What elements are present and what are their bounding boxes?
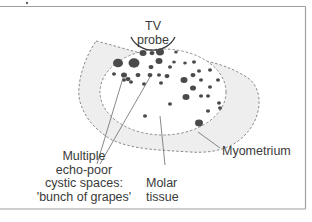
cyst xyxy=(156,58,163,64)
molar-label-line-1: Molar xyxy=(146,177,179,191)
cyst xyxy=(168,102,172,105)
myometrium-label-text: Myometrium xyxy=(222,145,291,159)
cyst xyxy=(191,73,196,77)
cyst xyxy=(197,69,201,72)
cyst xyxy=(216,78,220,81)
cyst xyxy=(143,114,147,117)
cyst xyxy=(129,80,133,83)
cyst xyxy=(208,68,212,71)
cyst xyxy=(218,106,222,109)
cyst xyxy=(159,81,163,84)
cyst xyxy=(165,74,170,78)
cyst xyxy=(181,77,188,83)
cyst xyxy=(192,60,196,63)
probe-label-line-1: TV xyxy=(133,20,173,34)
cyst xyxy=(121,72,127,77)
cyst xyxy=(208,85,212,88)
cyst xyxy=(183,61,187,64)
cyst xyxy=(126,77,131,81)
cyst xyxy=(206,94,210,97)
cystic-spaces-label: Multiple echo-poor cystic spaces: 'bunch… xyxy=(28,150,140,204)
cyst xyxy=(129,58,140,67)
cyst xyxy=(199,94,203,97)
molar-pregnancy-diagram: TV probe Multiple echo-poor cystic space… xyxy=(0,0,312,222)
cyst xyxy=(190,85,196,90)
cyst xyxy=(183,94,190,100)
cyst xyxy=(157,73,161,76)
cyst xyxy=(174,50,178,53)
cyst xyxy=(113,59,123,68)
probe-label-line-2: probe xyxy=(133,34,173,48)
cysts-label-line-1: Multiple xyxy=(28,150,140,164)
myometrium-label: Myometrium xyxy=(222,145,291,159)
cyst xyxy=(199,78,203,81)
cyst xyxy=(172,60,176,63)
molar-tissue-label: Molar tissue xyxy=(146,177,179,204)
cyst xyxy=(149,65,154,69)
cyst xyxy=(206,109,210,112)
cyst xyxy=(195,120,203,127)
cyst xyxy=(112,72,116,75)
cyst xyxy=(136,73,141,77)
molar-label-line-2: tissue xyxy=(146,191,179,205)
cyst xyxy=(156,49,164,56)
cysts-label-line-3: cystic spaces: xyxy=(28,177,140,191)
cysts-label-line-4: 'bunch of grapes' xyxy=(28,191,140,205)
cyst xyxy=(148,73,153,77)
cropped-glyph xyxy=(26,2,28,4)
tv-probe-label: TV probe xyxy=(133,20,173,47)
cysts-label-line-2: echo-poor xyxy=(28,164,140,178)
cyst xyxy=(140,50,147,56)
cyst xyxy=(150,51,155,55)
cyst xyxy=(217,101,221,104)
cyst xyxy=(168,65,172,68)
